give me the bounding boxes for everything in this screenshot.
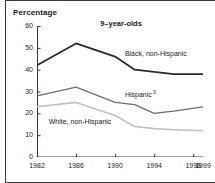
y-tick-label: 40 [19,66,33,73]
series-line [37,102,203,130]
footnote-marker: 3 [152,89,156,95]
chart-figure: Percentage 9–year-olds 0102030405060 198… [0,0,215,183]
y-tick-label: 20 [19,109,33,116]
y-tick-label: 10 [19,131,33,138]
series-line [37,43,203,74]
x-tick-label: 1986 [65,162,87,169]
axis-lines [38,26,204,157]
chart-svg [37,26,203,157]
series-line [37,87,203,113]
series-label: White, non-Hispanic [49,118,112,125]
y-tick-label: 0 [19,153,33,160]
y-axis-title: Percentage [13,8,57,17]
plot-area [37,26,203,157]
x-tick-label: 1982 [26,162,48,169]
series-label: Hispanic 3 [125,89,156,98]
y-tick-label: 50 [19,44,33,51]
x-tick-label: 1999 [192,162,214,169]
frame-bottom-rule [5,182,215,183]
y-tick-label: 60 [19,22,33,29]
x-tick-label: 1994 [143,162,165,169]
frame-top-rule [5,0,215,1]
y-tick-label: 30 [19,88,33,95]
frame-left-rule [5,0,6,183]
series-label: Black, non-Hispanic [125,50,187,57]
x-tick-label: 1990 [104,162,126,169]
